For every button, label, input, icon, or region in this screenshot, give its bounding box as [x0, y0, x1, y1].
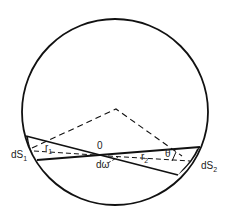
sphere-diagram	[0, 0, 227, 218]
r1-label: r1	[45, 143, 52, 155]
origin-label: 0	[97, 141, 103, 151]
dashed-radius-lines	[32, 109, 182, 156]
r2-label: r2	[141, 152, 148, 164]
ds2-label: dS2	[201, 161, 217, 173]
ds1-surface-patch	[26, 136, 37, 160]
theta-label: θ	[165, 149, 171, 159]
ds1-label: dS1	[11, 150, 27, 162]
sphere-outline	[22, 19, 208, 205]
solid-angle-label: dω	[96, 160, 109, 170]
